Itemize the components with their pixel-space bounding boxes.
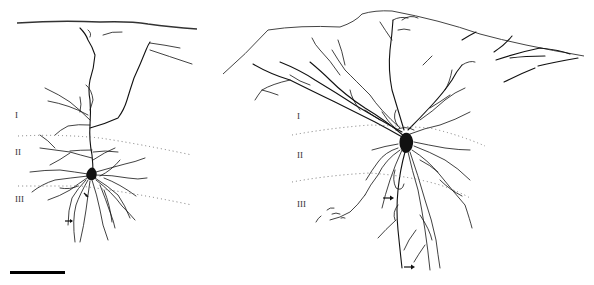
layer-label-left-I: I bbox=[15, 111, 18, 120]
right-soma bbox=[399, 133, 413, 153]
layer-label-left-II: II bbox=[15, 148, 21, 157]
neuron-drawings bbox=[0, 0, 594, 285]
scale-bar bbox=[10, 271, 65, 274]
layer-label-right-II: II bbox=[297, 151, 303, 160]
layer-label-left-III: III bbox=[15, 195, 24, 204]
left-pia-surface bbox=[17, 21, 197, 29]
right-boundary-I-II bbox=[292, 125, 485, 146]
left-neuron bbox=[17, 21, 197, 242]
neuron-figure: I II III I II III bbox=[0, 0, 594, 285]
layer-label-right-III: III bbox=[297, 200, 306, 209]
right-boundary-II-III bbox=[292, 173, 470, 198]
left-boundary-II-III bbox=[18, 186, 192, 205]
right-neuron bbox=[223, 11, 584, 270]
right-pia-surface bbox=[223, 11, 584, 74]
layer-label-right-I: I bbox=[297, 112, 300, 121]
